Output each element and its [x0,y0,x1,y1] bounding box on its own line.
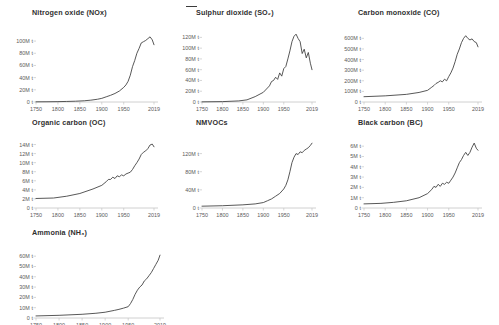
x-axis-tick-label: 1900 [96,106,108,112]
x-axis-tick-label: 1750 [30,322,42,325]
y-axis-tick-label: 40M t [2,274,33,280]
chart-title: Organic carbon (OC) [32,118,105,127]
chart-plot-area [36,140,160,211]
y-axis-tick-label: 40M t [168,77,199,83]
x-axis-tick-label: 1900 [257,212,269,218]
chart-grid-page: Nitrogen oxide (NOx)0 t20M t40M t60M t80… [0,0,499,325]
x-axis-tick-label: 1900 [421,106,433,112]
y-axis-tick-label: 80M t [2,50,33,56]
y-axis-tick-label: 60M t [2,253,33,259]
y-axis-tick-label: 30M t [2,284,33,290]
y-axis-tick-label: 60M t [2,62,33,68]
x-axis-tick-label: 1850 [76,322,88,325]
y-axis-tick-label: 0 t [330,99,361,105]
chart-plot-area [36,35,160,105]
x-axis-tick-label: 1950 [118,212,130,218]
x-axis-tick-label: 1750 [196,212,208,218]
x-axis-tick-label: 1800 [52,212,64,218]
chart-title: Sulphur dioxide (SO₂) [196,8,274,17]
x-axis-tick-label: 2019 [154,322,166,325]
chart-plot-area [36,250,166,321]
x-axis-tick-label: 1950 [443,212,455,218]
x-axis-tick-label: 1850 [74,106,86,112]
y-axis-tick-label: 600M t [330,35,361,41]
x-axis-tick-label: 2019 [472,106,484,112]
x-axis-tick-label: 1850 [400,212,412,218]
x-axis-tick-label: 1800 [216,212,228,218]
x-axis-tick-label: 2019 [306,106,318,112]
x-axis-tick-label: 1750 [358,106,370,112]
x-axis-tick-label: 1900 [421,212,433,218]
x-axis-tick-label: 1900 [257,106,269,112]
chart-title: Nitrogen oxide (NOx) [32,8,107,17]
y-axis-tick-label: 20M t [168,88,199,94]
y-axis-tick-label: 12M t [2,151,33,157]
y-axis-tick-label: 0 t [2,205,33,211]
y-axis-tick-label: 20M t [2,294,33,300]
y-axis-tick-label: 50M t [2,263,33,269]
x-axis-tick-label: 1800 [53,322,65,325]
y-axis-tick-label: 400M t [330,57,361,63]
y-axis-tick-label: 0 t [2,315,33,321]
x-axis-tick-label: 2019 [148,106,160,112]
y-axis-tick-label: 500M t [330,46,361,52]
x-axis-tick-label: 1900 [99,322,111,325]
y-axis-tick-label: 40M t [168,187,199,193]
x-axis-tick-label: 1950 [443,106,455,112]
x-axis-tick-label: 1750 [196,106,208,112]
y-axis-tick-label: 200M t [330,78,361,84]
x-axis-tick-label: 1750 [30,106,42,112]
chart-title: NMVOCs [196,118,228,127]
y-axis-tick-label: 0 t [168,205,199,211]
y-axis-tick-label: 120M t [168,34,199,40]
x-axis-tick-label: 1750 [358,212,370,218]
chart-plot-area [202,32,318,105]
x-axis-tick-label: 1800 [52,106,64,112]
data-series-line [364,143,478,204]
y-axis-tick-label: 0 t [2,99,33,105]
y-axis-tick-label: 60M t [168,67,199,73]
y-axis-tick-label: 10M t [2,160,33,166]
x-axis-tick-label: 1800 [379,212,391,218]
chart-title: Black carbon (BC) [358,118,423,127]
top-dash-marker [186,6,197,7]
y-axis-tick-label: 1M t [330,195,361,201]
data-series-line [36,144,154,198]
y-axis-tick-label: 40M t [2,75,33,81]
x-axis-tick-label: 1950 [278,106,290,112]
x-axis-tick-label: 1850 [400,106,412,112]
x-axis-tick-label: 1850 [237,212,249,218]
y-axis-tick-label: 100M t [330,88,361,94]
y-axis-tick-label: 0 t [330,205,361,211]
y-axis-tick-label: 3M t [330,174,361,180]
x-axis-tick-label: 1950 [122,322,134,325]
x-axis-tick-label: 1750 [30,212,42,218]
y-axis-tick-label: 100M t [168,45,199,51]
y-axis-tick-label: 4M t [2,187,33,193]
x-axis-tick-label: 1950 [278,212,290,218]
data-series-line [202,143,312,206]
x-axis-tick-label: 1800 [379,106,391,112]
y-axis-tick-label: 2M t [330,184,361,190]
x-axis-tick-label: 1950 [118,106,130,112]
y-axis-tick-label: 20M t [2,87,33,93]
y-axis-tick-label: 2M t [2,196,33,202]
x-axis-tick-label: 2019 [472,212,484,218]
data-series-line [36,255,160,316]
x-axis-tick-label: 2019 [148,212,160,218]
y-axis-tick-label: 14M t [2,142,33,148]
x-axis-tick-label: 1850 [237,106,249,112]
data-series-line [36,37,154,102]
y-axis-tick-label: 10M t [2,305,33,311]
y-axis-tick-label: 5M t [330,153,361,159]
x-axis-tick-label: 1900 [96,212,108,218]
y-axis-tick-label: 6M t [330,143,361,149]
y-axis-tick-label: 100M t [2,38,33,44]
x-axis-tick-label: 2019 [306,212,318,218]
data-series-line [202,34,312,102]
y-axis-tick-label: 120M t [168,151,199,157]
chart-plot-area [364,140,484,211]
chart-title: Carbon monoxide (CO) [358,8,440,17]
y-axis-tick-label: 6M t [2,178,33,184]
chart-title: Ammonia (NH₃) [32,228,87,237]
